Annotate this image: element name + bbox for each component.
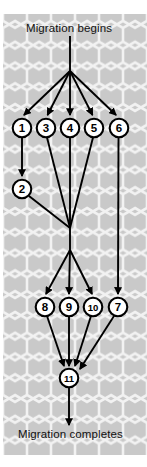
edge-5-to-hub [70, 138, 93, 229]
figure-canvas: 1 3 4 5 6 2 8 [0, 0, 147, 467]
node-2[interactable]: 2 [13, 180, 32, 199]
edge-8-to-11 [47, 316, 64, 366]
node-10-label: 10 [88, 302, 99, 313]
node-5[interactable]: 5 [85, 119, 104, 138]
node-4-label: 4 [67, 122, 74, 134]
node-9-label: 9 [66, 301, 72, 313]
edge-hub-to-1 [24, 71, 70, 115]
node-11[interactable]: 11 [60, 369, 79, 388]
node-2-label: 2 [19, 183, 25, 195]
edge-6-to-7 [118, 138, 119, 295]
node-11-label: 11 [64, 373, 75, 384]
node-4[interactable]: 4 [61, 119, 80, 138]
edge-10-to-11 [75, 316, 91, 366]
node-6-label: 6 [116, 122, 122, 134]
edge-hub-to-3 [48, 71, 71, 115]
node-3[interactable]: 3 [37, 119, 56, 138]
node-10[interactable]: 10 [84, 298, 103, 317]
edge-3-to-hub [47, 138, 70, 229]
edge-hub-to-9 [69, 250, 70, 294]
node-1[interactable]: 1 [13, 119, 32, 138]
node-8[interactable]: 8 [36, 298, 55, 317]
node-6[interactable]: 6 [110, 119, 129, 138]
edge-layer [22, 36, 119, 425]
node-7-label: 7 [115, 301, 121, 313]
migration-begins-label: Migration begins [26, 22, 112, 34]
edge-hub-to-8 [46, 250, 70, 294]
node-3-label: 3 [43, 122, 49, 134]
migration-flow-graph: 1 3 4 5 6 2 8 [0, 0, 147, 467]
edge-hub-to-5 [70, 71, 93, 115]
node-7[interactable]: 7 [109, 298, 128, 317]
node-1-label: 1 [19, 122, 26, 134]
edge-7-to-11 [80, 316, 114, 369]
node-9[interactable]: 9 [60, 298, 79, 317]
edge-hub-to-6 [70, 71, 116, 115]
node-8-label: 8 [42, 301, 49, 313]
migration-completes-label: Migration completes [18, 428, 123, 440]
node-5-label: 5 [91, 122, 98, 134]
edge-hub-to-10 [70, 250, 92, 294]
